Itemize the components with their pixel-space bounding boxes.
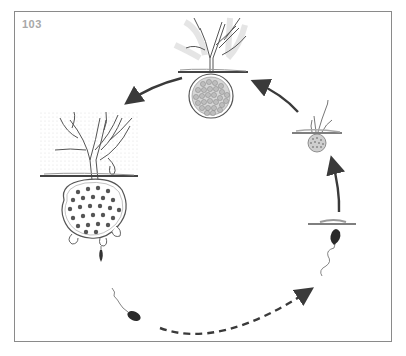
life-cycle-diagram xyxy=(0,0,406,356)
stage-zoospore-right xyxy=(321,229,341,276)
stage-large-left xyxy=(40,112,140,262)
stage-germling xyxy=(308,220,356,224)
stage-young-right xyxy=(292,100,342,152)
arrow-germling-to-young xyxy=(332,160,339,212)
arrow-dashed-bottom xyxy=(160,290,310,334)
arrow-young-to-mature xyxy=(255,82,298,112)
arrow-mature-to-large xyxy=(128,78,182,102)
stage-zoospore-left xyxy=(112,288,142,323)
stage-mature-top xyxy=(175,18,248,118)
